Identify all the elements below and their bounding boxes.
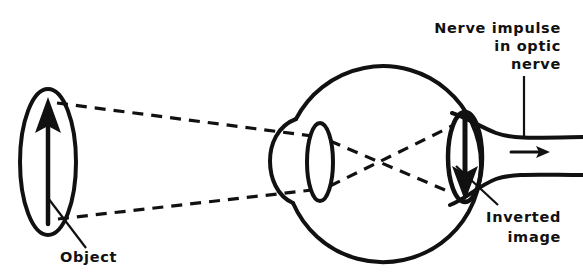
nerve-impulse-label-line1: Nerve impulse — [434, 20, 561, 36]
optic-nerve-group — [450, 113, 583, 205]
lower-light-ray — [58, 190, 312, 219]
lower-light-ray-inside-eye — [330, 126, 452, 186]
inverted-image-label-line2: image — [507, 229, 561, 245]
nerve-impulse-label-line3: nerve — [511, 56, 561, 72]
leader-lines-group — [48, 76, 524, 248]
nerve-impulse-label-line2: in optic — [494, 38, 561, 54]
eye-diagram-canvas: Object Nerve impulse in optic nerve Inve… — [0, 0, 583, 280]
lens-ellipse — [307, 123, 333, 201]
eye-optics-diagram: Object Nerve impulse in optic nerve Inve… — [0, 0, 583, 280]
inverted-image-label-line1: Inverted — [486, 209, 561, 225]
light-rays-group — [57, 103, 452, 219]
upper-light-ray — [57, 103, 312, 136]
object-leader-line — [48, 198, 86, 248]
object-group — [20, 89, 76, 235]
upper-light-ray-inside-eye — [330, 141, 452, 193]
object-label: Object — [60, 249, 117, 265]
